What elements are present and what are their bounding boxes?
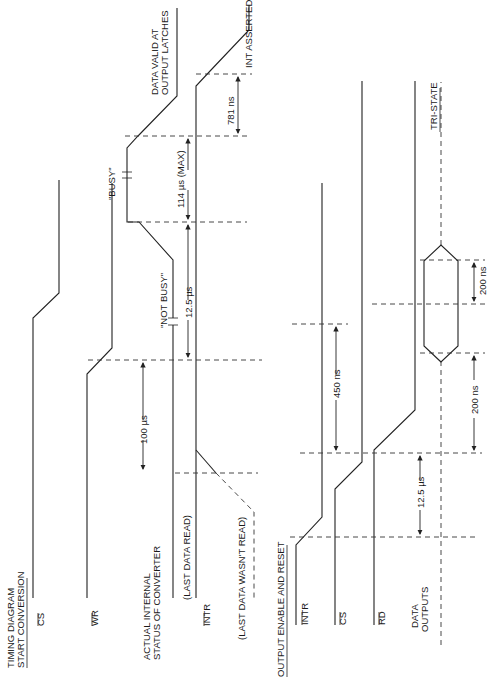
- intr-waveform: [196, 5, 249, 598]
- timing-200ns-b: 200 ns: [469, 385, 480, 414]
- intr-waveform-unread: [216, 473, 254, 600]
- timing-781ns: 781 ns: [225, 96, 236, 125]
- timing-200ns-a: 200 ns: [477, 266, 488, 295]
- output-rd-label: RD: [376, 611, 387, 625]
- timing-12-5us-a: 12.5 µs: [183, 286, 194, 318]
- tri-state-label: TRI-STATE: [428, 82, 439, 130]
- last-data-read-label: (LAST DATA READ): [181, 515, 192, 600]
- title-output-enable-reset: OUTPUT ENABLE AND RESET: [275, 541, 286, 677]
- timing-450ns: 450 ns: [331, 369, 342, 398]
- output-rd-waveform: [374, 81, 415, 625]
- cs-label: CS: [35, 613, 46, 626]
- int-asserted-label: INT ASSERTED: [243, 0, 254, 68]
- timing-12-5us-b: 12.5 µs: [415, 476, 426, 508]
- data-outputs-valid-window: [424, 245, 458, 362]
- intr-waveform-reset: [196, 450, 216, 473]
- output-intr-waveform: [296, 183, 322, 625]
- not-busy-label: "NOT BUSY": [158, 273, 169, 328]
- timing-diagram: TIMING DIAGRAM START CONVERSION CS WR AC…: [0, 0, 503, 681]
- last-data-not-read-label: (LAST DATA WASN'T READ): [236, 517, 247, 640]
- intr-label: INTR: [201, 604, 212, 626]
- timing-114us-max: 114 µs (MAX): [175, 150, 186, 208]
- status-label-2: STATUS OF CONVERTER: [151, 546, 162, 660]
- section-start-conversion: TIMING DIAGRAM START CONVERSION CS WR AC…: [5, 0, 262, 668]
- cs-waveform: [33, 180, 59, 598]
- timing-100us: 100 µs: [138, 415, 149, 444]
- data-outputs-label-2: OUTPUTS: [419, 587, 430, 632]
- title-start-conversion: START CONVERSION: [15, 571, 26, 668]
- data-valid-label-2: OUTPUT LATCHES: [159, 10, 170, 95]
- section-output-enable-reset: OUTPUT ENABLE AND RESET INTR CS RD DATA …: [275, 81, 488, 677]
- wr-waveform: [87, 183, 112, 598]
- wr-label: WR: [89, 610, 100, 626]
- output-intr-label: INTR: [299, 603, 310, 625]
- output-cs-waveform: [335, 81, 362, 625]
- busy-label: "BUSY": [106, 167, 117, 200]
- output-cs-label: CS: [337, 612, 348, 625]
